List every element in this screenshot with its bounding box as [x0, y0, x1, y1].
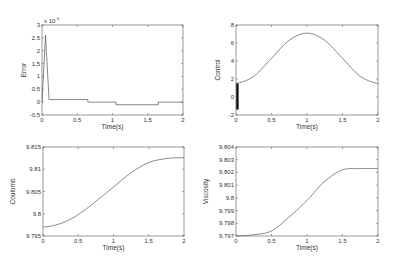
data-line: [236, 169, 378, 236]
y-tick-label: 2: [231, 76, 235, 82]
data-line: [236, 33, 378, 83]
chattering-band: [236, 84, 238, 110]
x-tick-label: 1.5: [338, 117, 347, 123]
y-tick-label: 9.81: [29, 166, 41, 172]
axes-box: [43, 147, 184, 236]
y-tick-label: 9.804: [219, 144, 235, 150]
y-axis-label: Control: [214, 59, 221, 81]
axes-box: [236, 25, 378, 115]
x-tick-label: 1.5: [338, 238, 347, 244]
axes-box: [42, 25, 183, 115]
error-plot: 00.511.52-0.500.511.522.53Time(s)Errorx …: [20, 16, 185, 131]
y-tick-label: -2: [229, 112, 235, 118]
y-axis-label: Viscosity: [202, 178, 210, 204]
x-tick-label: 0.5: [73, 117, 82, 123]
y-tick-label: 9.798: [219, 220, 235, 226]
y-tick-label: 9.799: [219, 208, 235, 214]
control-plot: 00.511.52-202468Time(s)Control: [214, 22, 380, 131]
x-tick-label: 2: [376, 238, 380, 244]
y-axis-label: Error: [20, 62, 27, 77]
x-tick-label: 0.5: [74, 238, 83, 244]
y-tick-label: 9.815: [26, 144, 42, 150]
y-tick-label: 0.5: [32, 86, 41, 92]
y-tick-label: 9.805: [26, 189, 42, 195]
y-tick-label: 4: [231, 58, 235, 64]
x-axis-label: Time(s): [103, 244, 125, 252]
x-tick-label: 0.5: [267, 238, 276, 244]
x-tick-label: 2: [182, 238, 186, 244]
y-tick-label: 9.795: [26, 233, 42, 239]
x-tick-label: 0.5: [267, 117, 276, 123]
x-axis-label: Time(s): [296, 123, 318, 131]
x-tick-label: 2: [376, 117, 380, 123]
x-tick-label: 1.5: [144, 117, 153, 123]
y-tick-label: 2.5: [32, 35, 41, 41]
figure-canvas: 00.511.52-0.500.511.522.53Time(s)Errorx …: [0, 0, 393, 264]
y-tick-label: 3: [37, 22, 41, 28]
viscosity-plot: 00.511.529.7979.7989.7999.89.8019.8029.8…: [202, 144, 380, 252]
y-tick-label: 9.801: [219, 182, 235, 188]
y-tick-label: 1: [37, 73, 41, 79]
y-tick-label: 0: [37, 99, 41, 105]
y-tick-label: 9.8: [226, 195, 235, 201]
y-tick-label: 9.802: [219, 169, 235, 175]
x-tick-label: 0: [234, 238, 238, 244]
y-tick-label: 9.797: [219, 233, 235, 239]
y-tick-label: 2: [37, 48, 41, 54]
x-tick-label: 2: [181, 117, 185, 123]
y-tick-label: 1.5: [32, 61, 41, 67]
x-axis-label: Time(s): [296, 244, 318, 252]
axes-box: [236, 147, 378, 236]
x-tick-label: 0: [234, 117, 238, 123]
y-tick-label: 8: [231, 22, 235, 28]
y-tick-label: 6: [231, 40, 235, 46]
x-tick-label: 0: [41, 238, 45, 244]
data-line: [43, 158, 184, 227]
y-tick-label: 0: [231, 94, 235, 100]
y-tick-label: 9.8: [33, 211, 42, 217]
y-axis-label: Coulomb: [9, 178, 16, 204]
axis-multiplier: x 10-3: [44, 16, 60, 24]
y-tick-label: 9.803: [219, 157, 235, 163]
y-tick-label: -0.5: [30, 112, 41, 118]
data-line: [42, 35, 183, 104]
coulomb-plot: 00.511.529.7959.89.8059.819.815Time(s)Co…: [9, 144, 186, 252]
x-tick-label: 0: [40, 117, 44, 123]
x-tick-label: 1.5: [145, 238, 154, 244]
x-axis-label: Time(s): [102, 123, 124, 131]
